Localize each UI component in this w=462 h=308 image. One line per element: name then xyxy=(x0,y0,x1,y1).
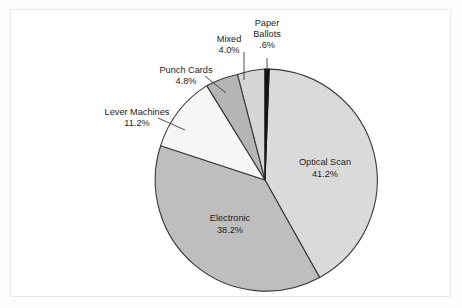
pie-slices xyxy=(155,69,377,291)
label-electronic-name: Electronic xyxy=(210,213,251,223)
label-electronic-value: 38.2% xyxy=(217,225,243,235)
label-punch-cards-name: Punch Cards xyxy=(159,65,213,75)
label-lever-machines-value: 11.2% xyxy=(124,118,149,128)
label-lever-machines-name: Lever Machines xyxy=(105,107,170,117)
figure-canvas: Paper Ballots .6% Mixed 4.0% Punch Cards… xyxy=(0,0,462,308)
pie-chart: Paper Ballots .6% Mixed 4.0% Punch Cards… xyxy=(0,0,462,308)
label-mixed-name: Mixed xyxy=(217,34,242,44)
label-optical-scan-name: Optical Scan xyxy=(299,157,351,167)
label-punch-cards-value: 4.8% xyxy=(176,76,197,86)
label-paper-ballots-value: .6% xyxy=(259,40,275,50)
label-paper-ballots-line1: Paper xyxy=(255,18,280,28)
label-mixed-value: 4.0% xyxy=(219,45,240,55)
label-paper-ballots-line2: Ballots xyxy=(253,29,281,39)
label-optical-scan-value: 41.2% xyxy=(312,169,338,179)
